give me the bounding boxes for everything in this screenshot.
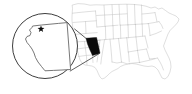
map-canvas <box>0 0 192 94</box>
inset-group[interactable] <box>13 14 78 79</box>
locator-map-figure <box>0 0 192 94</box>
us-basemap-group <box>72 4 179 79</box>
